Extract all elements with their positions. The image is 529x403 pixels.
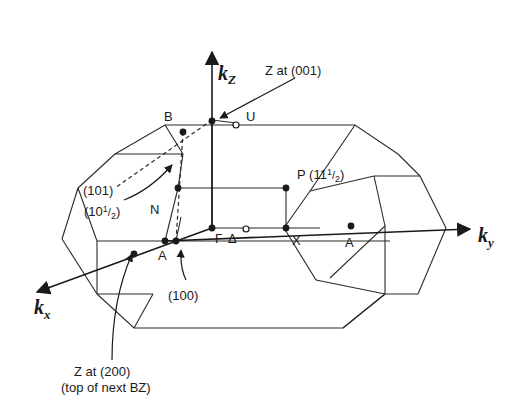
point-delta-open bbox=[243, 226, 249, 232]
point-100 bbox=[173, 238, 180, 245]
kx-axis bbox=[37, 228, 212, 292]
point-b bbox=[180, 129, 187, 136]
a-left-label: A bbox=[158, 248, 167, 263]
point-n bbox=[175, 185, 182, 192]
l100-label: (100) bbox=[168, 288, 198, 303]
l101-label: (101) bbox=[83, 183, 113, 198]
ky-label: ky bbox=[478, 224, 494, 250]
a-right-label: A bbox=[345, 235, 354, 250]
b-label: B bbox=[164, 109, 173, 124]
zone-outline bbox=[62, 125, 446, 328]
point-u-open bbox=[233, 122, 239, 128]
delta-label: Δ bbox=[228, 231, 237, 246]
kz-label: kZ bbox=[218, 62, 236, 87]
kx-label: kx bbox=[34, 296, 51, 322]
inner-lines bbox=[115, 120, 320, 241]
axes bbox=[37, 52, 470, 292]
z200-label-line1: Z at (200) bbox=[74, 364, 130, 379]
point-x bbox=[283, 225, 290, 232]
p-label: P (111/2) bbox=[297, 167, 344, 184]
brillouin-zone-diagram: kZ ky kx Z at (001) B U (101) (101/2) N … bbox=[0, 0, 529, 403]
point-z001 bbox=[209, 118, 216, 125]
point-a-left bbox=[162, 238, 169, 245]
l10half-label: (101/2) bbox=[84, 204, 120, 221]
z001-label: Z at (001) bbox=[265, 63, 321, 78]
gamma-label: Γ bbox=[215, 231, 222, 246]
u-label: U bbox=[246, 109, 255, 124]
point-p bbox=[283, 185, 290, 192]
point-z200 bbox=[131, 251, 138, 258]
z200-label-line2: (top of next BZ) bbox=[61, 380, 151, 395]
n-label: N bbox=[150, 202, 159, 217]
point-a-right bbox=[348, 223, 355, 230]
x-label: X bbox=[292, 233, 301, 248]
